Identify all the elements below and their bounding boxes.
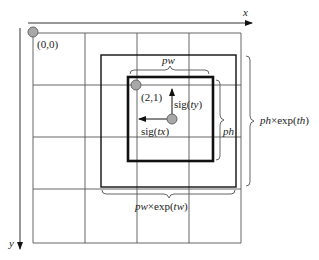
x-axis-label: x: [242, 6, 248, 18]
sig-tx-label: sig(tx): [141, 125, 169, 138]
cell-label: (2,1): [141, 91, 162, 104]
ph-exp-label: ph×exp(th): [259, 114, 309, 127]
ph-exp-brace: [246, 56, 254, 186]
ph-label: ph: [222, 125, 235, 137]
center-point-icon: [167, 114, 177, 124]
y-axis-label: y: [8, 237, 14, 249]
sig-ty-label: sig(ty): [174, 98, 202, 111]
pw-exp-label: pw×exp(tw): [134, 200, 188, 213]
pw-label: pw: [161, 54, 176, 66]
pw-brace: [130, 66, 209, 74]
cell-point-icon: [131, 80, 141, 90]
ph-brace: [216, 80, 224, 160]
origin-label: (0,0): [37, 38, 58, 51]
bounding-box-diagram: x y (0,0) (2,1) sig(ty) sig(tx) pw ph pw…: [0, 0, 319, 260]
origin-point-icon: [28, 27, 38, 37]
pw-exp-brace: [102, 190, 235, 198]
